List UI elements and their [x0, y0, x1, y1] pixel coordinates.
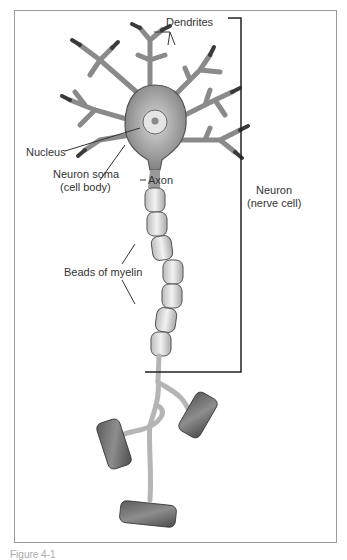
label-axon: Axon — [148, 174, 173, 187]
label-soma-line2: (cell body) — [60, 181, 111, 194]
label-neuron-line1: Neuron — [256, 184, 292, 197]
label-dendrites: Dendrites — [166, 16, 213, 29]
label-neuron-line2: (nerve cell) — [247, 197, 301, 210]
myelin-beads — [145, 188, 183, 356]
label-soma-line1: Neuron soma — [53, 168, 119, 181]
figure-caption: Figure 4-1 — [10, 549, 56, 560]
label-nucleus: Nucleus — [26, 146, 66, 159]
axon-terminals — [115, 356, 190, 500]
label-myelin: Beads of myelin — [64, 266, 142, 279]
